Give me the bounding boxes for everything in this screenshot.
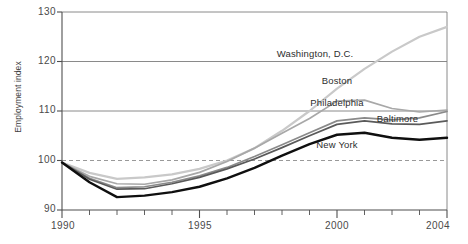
series-label-washington: Washington, D.C.: [277, 48, 354, 59]
series-label-baltimore: Baltimore: [377, 113, 418, 124]
series-label-boston: Boston: [322, 75, 352, 86]
series-label-philadelphia: Philadelphia: [310, 97, 364, 108]
series-label-newyork: New York: [316, 139, 357, 150]
employment-index-chart: Employment index 130 120 110 100 90 1990…: [0, 0, 468, 244]
